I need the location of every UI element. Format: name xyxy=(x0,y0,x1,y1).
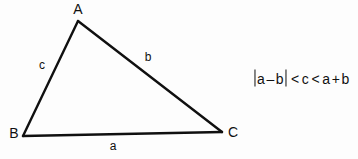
vertex-label-a: A xyxy=(73,2,82,16)
formula-term-c: c xyxy=(302,71,309,85)
side-label-c: c xyxy=(39,59,45,71)
formula-term-a-left: a xyxy=(257,71,265,85)
triangle-inequality-formula: a – b < c < a + b xyxy=(252,70,349,87)
side-label-b: b xyxy=(145,51,152,63)
formula-less-than-2: < xyxy=(309,71,322,85)
vertex-label-b: B xyxy=(9,126,18,140)
formula-term-b-left: b xyxy=(276,71,284,85)
formula-plus-operator: + xyxy=(330,71,341,85)
triangle-inequality-figure: A B C a b c a – b < c < a + b xyxy=(0,0,358,159)
formula-term-a-right: a xyxy=(322,71,330,85)
absolute-value-bar-open xyxy=(254,70,256,87)
formula-term-b-right: b xyxy=(341,71,349,85)
vertex-label-c: C xyxy=(228,125,238,139)
formula-minus-operator: – xyxy=(265,71,276,85)
absolute-value-bar-close xyxy=(285,70,287,87)
side-label-a: a xyxy=(110,140,117,152)
triangle-side-a-line xyxy=(23,132,222,136)
triangle-side-b-line xyxy=(78,21,222,132)
formula-less-than-1: < xyxy=(288,71,301,85)
triangle-side-c-line xyxy=(23,21,78,136)
